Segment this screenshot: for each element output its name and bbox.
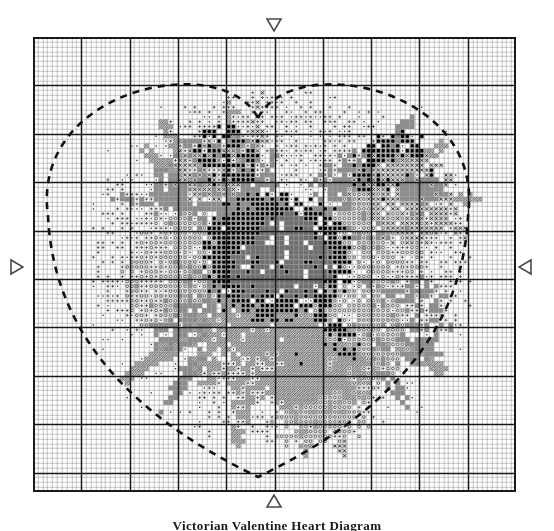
chart-page: Victorian Valentine Heart Diagram [0, 0, 554, 531]
heart-outline-layer [33, 37, 516, 492]
chart-caption: Victorian Valentine Heart Diagram [0, 518, 554, 531]
cross-stitch-chart [33, 37, 516, 492]
